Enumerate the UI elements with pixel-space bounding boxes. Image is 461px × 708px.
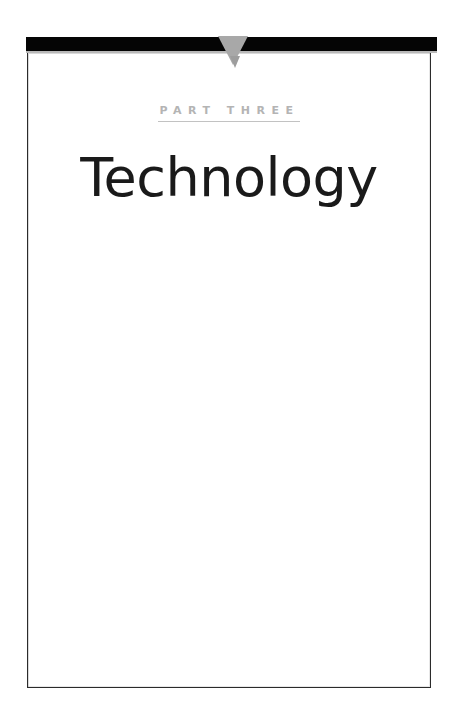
scanned-page: PART THREE Technology (0, 0, 461, 708)
page-title: Technology (28, 150, 430, 207)
page-content: PART THREE Technology (28, 53, 430, 687)
part-title-container: Technology (28, 150, 430, 207)
part-label-container: PART THREE (28, 99, 430, 122)
triangle-down-tip-icon (230, 56, 240, 68)
page-frame: PART THREE Technology (27, 52, 431, 688)
part-number-label: PART THREE (158, 104, 299, 122)
